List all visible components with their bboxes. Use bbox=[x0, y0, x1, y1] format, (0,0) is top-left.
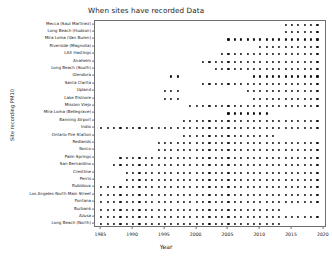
x-axis-tick-mark bbox=[322, 227, 323, 229]
data-point bbox=[285, 98, 287, 100]
y-axis-tick-label: Long Beach (North) bbox=[52, 221, 91, 225]
data-point bbox=[189, 127, 191, 129]
data-point bbox=[240, 157, 242, 159]
data-point bbox=[183, 127, 185, 129]
data-point bbox=[266, 142, 268, 144]
data-point bbox=[253, 216, 255, 218]
data-point bbox=[189, 201, 191, 203]
data-point bbox=[291, 194, 293, 196]
data-point bbox=[132, 186, 134, 188]
data-point bbox=[170, 75, 172, 77]
data-point bbox=[247, 223, 249, 225]
data-point bbox=[227, 105, 229, 107]
data-point bbox=[215, 223, 217, 225]
data-point bbox=[304, 90, 306, 92]
data-point bbox=[234, 179, 236, 181]
data-point bbox=[247, 172, 249, 174]
data-point bbox=[145, 172, 147, 174]
data-point bbox=[304, 53, 306, 55]
data-point bbox=[177, 149, 179, 151]
data-point bbox=[145, 127, 147, 129]
data-point bbox=[240, 164, 242, 166]
data-point bbox=[297, 53, 299, 55]
data-point bbox=[297, 172, 299, 174]
data-point bbox=[304, 105, 306, 107]
data-point bbox=[259, 172, 261, 174]
data-point bbox=[227, 112, 229, 114]
data-point bbox=[291, 149, 293, 151]
data-point bbox=[227, 179, 229, 181]
data-point bbox=[272, 127, 274, 129]
data-point bbox=[119, 157, 121, 159]
data-point bbox=[208, 149, 210, 151]
data-point bbox=[221, 223, 223, 225]
data-point bbox=[227, 142, 229, 144]
data-point bbox=[221, 53, 223, 55]
data-point bbox=[266, 172, 268, 174]
data-point bbox=[285, 105, 287, 107]
data-point bbox=[189, 164, 191, 166]
data-point bbox=[259, 53, 261, 55]
data-point bbox=[247, 149, 249, 151]
data-point bbox=[297, 201, 299, 203]
data-point bbox=[316, 46, 318, 48]
y-axis-tick-mark bbox=[92, 208, 94, 209]
data-point bbox=[234, 38, 236, 40]
data-point bbox=[285, 216, 287, 218]
data-point bbox=[266, 127, 268, 129]
data-point bbox=[164, 172, 166, 174]
data-point bbox=[170, 164, 172, 166]
y-axis-tick-mark bbox=[92, 90, 94, 91]
data-point bbox=[253, 208, 255, 210]
data-point bbox=[316, 194, 318, 196]
data-point bbox=[208, 186, 210, 188]
data-point bbox=[304, 157, 306, 159]
data-point bbox=[304, 46, 306, 48]
data-point bbox=[247, 201, 249, 203]
data-point bbox=[316, 105, 318, 107]
data-point bbox=[227, 186, 229, 188]
data-point bbox=[151, 194, 153, 196]
data-point bbox=[278, 68, 280, 70]
data-point bbox=[113, 223, 115, 225]
data-point bbox=[285, 46, 287, 48]
data-point bbox=[316, 90, 318, 92]
data-point bbox=[202, 127, 204, 129]
data-point bbox=[316, 68, 318, 70]
data-point bbox=[202, 216, 204, 218]
data-point bbox=[234, 172, 236, 174]
data-point bbox=[164, 149, 166, 151]
data-point bbox=[202, 179, 204, 181]
data-point bbox=[247, 53, 249, 55]
data-point bbox=[196, 216, 198, 218]
data-point bbox=[183, 186, 185, 188]
data-point bbox=[266, 208, 268, 210]
data-point bbox=[151, 157, 153, 159]
data-point bbox=[151, 223, 153, 225]
data-point bbox=[285, 75, 287, 77]
data-point bbox=[240, 135, 242, 137]
data-point bbox=[126, 194, 128, 196]
y-axis-tick-label: Mira Loma (Van Buren) bbox=[45, 36, 91, 40]
data-point bbox=[291, 53, 293, 55]
data-point bbox=[266, 164, 268, 166]
data-point bbox=[119, 127, 121, 129]
y-axis-tick-label: Anaheim bbox=[73, 59, 91, 63]
data-point bbox=[278, 105, 280, 107]
data-point bbox=[164, 223, 166, 225]
data-point bbox=[316, 75, 318, 77]
data-point bbox=[132, 127, 134, 129]
data-point bbox=[253, 75, 255, 77]
data-point bbox=[208, 61, 210, 63]
data-point bbox=[189, 216, 191, 218]
data-point bbox=[234, 112, 236, 114]
data-point bbox=[310, 157, 312, 159]
data-point bbox=[145, 208, 147, 210]
data-point bbox=[170, 201, 172, 203]
data-point bbox=[272, 61, 274, 63]
data-point bbox=[177, 216, 179, 218]
data-point bbox=[234, 149, 236, 151]
data-point bbox=[291, 68, 293, 70]
data-point bbox=[253, 172, 255, 174]
data-point bbox=[164, 201, 166, 203]
